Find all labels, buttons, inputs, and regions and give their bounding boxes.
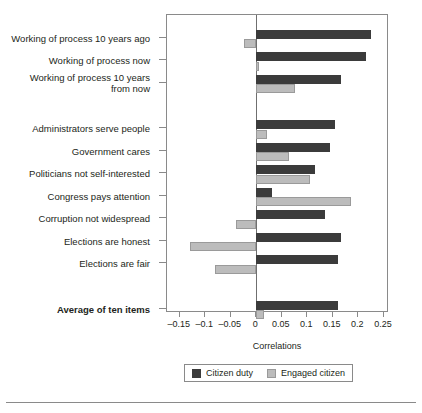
x-axis-tick-label: –0.15 [167,319,190,329]
category-label: Corruption not widespread [0,213,162,224]
x-axis-title: Correlations [166,341,388,351]
x-axis-tick [357,312,358,317]
x-axis-tick-label: 0.1 [300,319,313,329]
category-label: Elections are fair [0,258,162,269]
x-axis-tick [383,312,384,317]
category-tick [159,262,166,263]
bar-citizen-duty [256,165,315,174]
bar-citizen-duty [256,255,338,264]
x-axis-tick-label: –0.05 [219,319,242,329]
legend-label-citizen-duty: Citizen duty [206,368,253,378]
x-axis-tick-label: 0.2 [351,319,364,329]
x-axis-tick [255,312,256,317]
bar-citizen-duty [256,52,366,61]
x-axis-tick [204,312,205,317]
category-label: Elections are honest [0,236,162,247]
plot-area [166,14,388,312]
category-tick [159,172,166,173]
category-label: Working of process 10 years ago [0,33,162,44]
chart-figure: Working of process 10 years agoWorking o… [0,0,422,413]
category-label: Working of process now [0,55,162,66]
duty-swatch-icon [192,369,201,378]
bottom-divider [6,402,416,403]
legend-item-citizen-duty: Citizen duty [192,368,253,378]
x-axis-tick-label: 0.25 [374,319,392,329]
x-axis-tick [179,312,180,317]
bar-engaged-citizen [256,84,294,93]
category-label: Congress pays attention [0,191,162,202]
x-axis-tick-label: 0.05 [272,319,290,329]
bar-citizen-duty [256,143,330,152]
category-tick [159,127,166,128]
bar-citizen-duty [256,30,371,39]
bar-engaged-citizen [244,39,257,48]
legend: Citizen duty Engaged citizen [184,364,353,382]
x-axis-tick-label: –0.1 [196,319,214,329]
engaged-swatch-icon [267,369,276,378]
category-label: Government cares [0,146,162,157]
bar-citizen-duty [256,75,340,84]
bar-engaged-citizen [190,242,256,251]
category-tick [159,37,166,38]
category-tick [159,217,166,218]
bar-engaged-citizen [236,220,256,229]
x-axis-tick [230,312,231,317]
x-axis-tick [281,312,282,317]
bar-engaged-citizen [256,310,264,319]
category-tick [159,59,166,60]
bar-citizen-duty [256,233,340,242]
legend-item-engaged-citizen: Engaged citizen [267,368,345,378]
bar-citizen-duty [256,210,325,219]
category-tick [159,240,166,241]
bar-engaged-citizen [256,152,289,161]
bar-citizen-duty [256,120,335,129]
bar-engaged-citizen [256,175,310,184]
bar-engaged-citizen [256,197,350,206]
category-label: Administrators serve people [0,123,162,134]
x-axis-tick-label: 0 [253,319,258,329]
category-tick [159,150,166,151]
bar-engaged-citizen [256,62,259,71]
category-tick [159,82,166,83]
x-axis-tick [332,312,333,317]
category-label: Politicians not self-interested [0,168,162,179]
bar-citizen-duty [256,188,271,197]
bar-citizen-duty [256,301,338,310]
category-label: Working of process 10 years from now [0,72,162,94]
bar-engaged-citizen [256,130,266,139]
category-tick [159,195,166,196]
x-axis-tick [306,312,307,317]
category-label: Average of ten items [0,304,162,315]
x-axis-tick-label: 0.15 [323,319,341,329]
legend-label-engaged-citizen: Engaged citizen [281,368,345,378]
category-tick [159,308,166,309]
bar-engaged-citizen [215,265,256,274]
